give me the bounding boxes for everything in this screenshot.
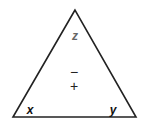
center-plus-symbol: + (70, 78, 78, 94)
label-bottom-right-y: y (109, 103, 118, 117)
label-top-z: z (71, 29, 78, 43)
triangle-diagram: z − + x y (0, 0, 148, 126)
label-bottom-left-x: x (26, 103, 35, 117)
